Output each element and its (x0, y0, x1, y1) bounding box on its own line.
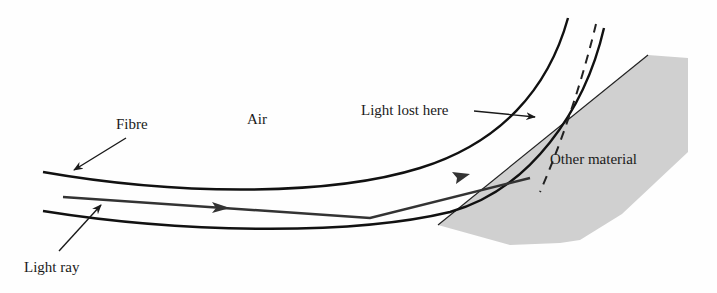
other-material-label: Other material (550, 152, 637, 167)
other-material-region (438, 55, 688, 245)
diagram-graphic (0, 0, 717, 293)
fibre-label: Fibre (116, 117, 148, 132)
fibre-outer-wall (43, 18, 568, 190)
fibre-pointer-arrow (74, 138, 126, 170)
light-lost-label: Light lost here (361, 103, 448, 118)
diagram-canvas: Fibre Air Light lost here Other material… (0, 0, 717, 293)
light-ray-label: Light ray (24, 260, 79, 275)
light-ray-pointer-arrow (59, 205, 101, 251)
light-lost-pointer-arrow (474, 111, 535, 117)
air-label: Air (247, 112, 267, 127)
light-ray-arrowhead-2 (452, 172, 470, 184)
